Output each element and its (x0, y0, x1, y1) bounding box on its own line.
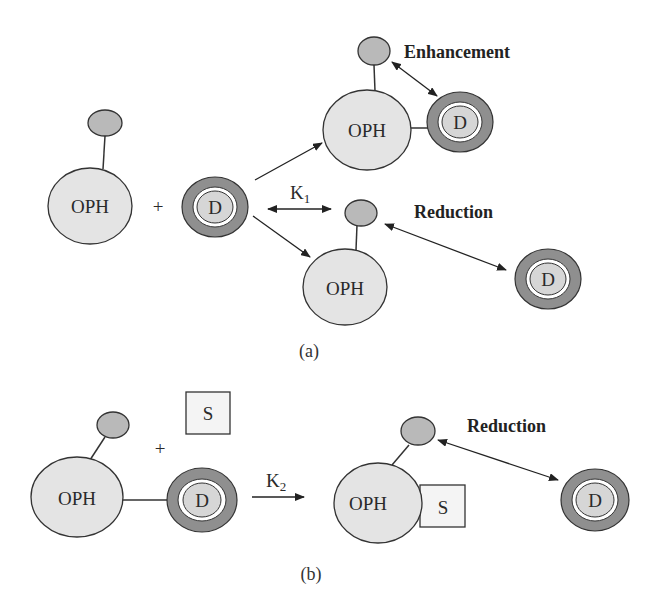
s-label: S (203, 403, 214, 424)
k2-label: K2 (266, 470, 286, 494)
arrow-to-enhancement (255, 143, 322, 180)
oph-label: OPH (71, 196, 109, 217)
oph-label: OPH (349, 493, 387, 514)
d-molecule: D (182, 177, 248, 237)
d-label: D (195, 490, 209, 511)
panel-a: OPH + D K1 OPH D Enhancement (48, 37, 581, 362)
caption-a: (a) (299, 341, 319, 362)
reduction-label: Reduction (414, 202, 493, 222)
oph-free-complex: OPH (48, 110, 132, 244)
enhancement-label: Enhancement (404, 42, 510, 62)
s-label: S (438, 497, 449, 518)
oph-s-complex: OPH S Reduction D (334, 416, 629, 543)
small-subunit (88, 110, 122, 136)
diagram-canvas: OPH + D K1 OPH D Enhancement (0, 0, 661, 608)
d-label: D (541, 269, 555, 290)
panel-b: OPH D + S K2 OPH S Reduction D (b) (31, 392, 629, 585)
reduction-complex: OPH Reduction D (303, 200, 581, 325)
reduction-interaction-arrow (385, 224, 506, 270)
plus-sign: + (153, 196, 164, 217)
d-label: D (453, 112, 467, 133)
caption-b: (b) (301, 564, 322, 585)
d-label: D (588, 490, 602, 511)
oph-label: OPH (348, 120, 386, 141)
plus-sign: + (155, 438, 166, 459)
k1-label: K1 (290, 182, 310, 206)
oph-label: OPH (58, 488, 96, 509)
reduction-interaction-arrow (438, 440, 558, 480)
oph-label: OPH (326, 278, 364, 299)
substrate-s: S (186, 392, 230, 434)
enhancement-interaction-arrow (392, 62, 437, 96)
enhancement-complex: OPH D Enhancement (323, 37, 510, 170)
reduction-label: Reduction (467, 416, 546, 436)
d-label: D (208, 197, 222, 218)
arrow-to-reduction (253, 216, 310, 257)
